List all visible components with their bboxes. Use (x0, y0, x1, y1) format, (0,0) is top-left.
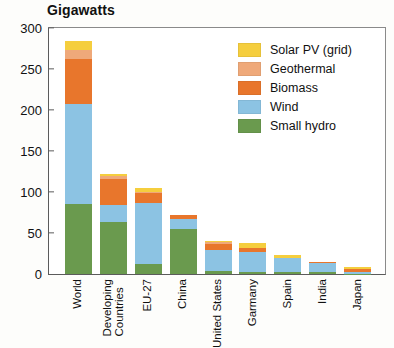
x-axis-label: EU-27 (142, 279, 154, 312)
x-axis-label: Japan (353, 279, 365, 310)
stacked-bar[interactable] (205, 241, 232, 274)
x-axis-label: India (318, 279, 330, 304)
legend-swatch (238, 119, 261, 133)
x-axis-label-line: Garmany (247, 279, 259, 326)
stacked-bar[interactable] (170, 215, 197, 274)
x-axis-label: World (72, 279, 84, 309)
stacked-bar[interactable] (135, 188, 162, 274)
y-tick-label: 150 (20, 144, 49, 159)
legend-item[interactable]: Geothermal (238, 61, 352, 77)
x-axis-label-line: China (177, 279, 189, 309)
stacked-bar[interactable] (344, 267, 371, 274)
x-label-slot: Japan (341, 277, 376, 344)
bar-slot (61, 28, 96, 274)
bar-segment-biomass (100, 179, 127, 205)
bar-segment-biomass (135, 193, 162, 203)
bar-segment-wind (65, 104, 92, 204)
chart-title: Gigawatts (47, 2, 115, 18)
x-axis-label-line: United States (212, 279, 224, 348)
bar-segment-wind (135, 203, 162, 264)
legend-label: Wind (270, 100, 298, 114)
bar-slot (96, 28, 131, 274)
y-tick-label: 0 (35, 267, 49, 282)
legend-item[interactable]: Biomass (238, 80, 352, 96)
bar-segment-small-hydro (170, 229, 197, 274)
x-axis-label: United States (212, 279, 224, 348)
bar-segment-wind (309, 263, 336, 272)
bar-segment-solar-pv-grid (65, 41, 92, 50)
bar-slot (166, 28, 201, 274)
x-label-slot: DevelopingCountries (95, 277, 130, 344)
stacked-bar[interactable] (309, 262, 336, 274)
x-label-slot: United States (200, 277, 235, 344)
legend-swatch (238, 43, 261, 57)
legend-label: Solar PV (grid) (270, 43, 352, 57)
bar-segment-small-hydro (309, 272, 336, 274)
bar-segment-geothermal (65, 50, 92, 59)
legend-label: Small hydro (270, 119, 336, 133)
x-axis-label-line: EU-27 (142, 279, 154, 312)
x-axis-labels: WorldDevelopingCountriesEU-27ChinaUnited… (48, 277, 386, 344)
x-axis-label-line: India (318, 279, 330, 304)
stacked-bar[interactable] (239, 243, 266, 274)
bar-segment-small-hydro (65, 204, 92, 274)
bar-segment-wind (239, 252, 266, 273)
bar-segment-small-hydro (274, 272, 301, 274)
stacked-bar[interactable] (274, 255, 301, 274)
x-axis-label-line: Spain (282, 279, 294, 308)
x-axis-label: Spain (282, 279, 294, 308)
stacked-bar[interactable] (65, 41, 92, 274)
x-axis-label-line: Developing (101, 279, 113, 337)
x-label-slot: China (165, 277, 200, 344)
bar-segment-small-hydro (100, 222, 127, 274)
y-tick-label: 100 (20, 185, 49, 200)
x-label-slot: Spain (271, 277, 306, 344)
bar-segment-small-hydro (239, 272, 266, 274)
y-tick-label: 200 (20, 103, 49, 118)
legend-label: Biomass (270, 81, 318, 95)
legend-item[interactable]: Solar PV (grid) (238, 42, 352, 58)
legend-item[interactable]: Wind (238, 99, 352, 115)
legend-swatch (238, 81, 261, 95)
bar-segment-small-hydro (205, 271, 232, 274)
x-label-slot: EU-27 (130, 277, 165, 344)
y-tick-label: 250 (20, 62, 49, 77)
bar-segment-biomass (65, 59, 92, 104)
legend-item[interactable]: Small hydro (238, 118, 352, 134)
legend-swatch (238, 100, 261, 114)
bar-segment-small-hydro (135, 264, 162, 274)
x-axis-label-line: Japan (353, 279, 365, 310)
y-tick-label: 300 (20, 21, 49, 36)
x-axis-label: China (177, 279, 189, 309)
stacked-bar[interactable] (100, 174, 127, 274)
legend-swatch (238, 62, 261, 76)
bar-segment-wind (205, 250, 232, 271)
x-label-slot: India (306, 277, 341, 344)
x-axis-label: DevelopingCountries (101, 279, 124, 337)
x-axis-label: Garmany (247, 279, 259, 326)
legend-label: Geothermal (270, 62, 335, 76)
bar-slot (131, 28, 166, 274)
bar-slot (201, 28, 236, 274)
x-label-slot: World (60, 277, 95, 344)
x-axis-label-line: World (72, 279, 84, 309)
x-label-slot: Garmany (236, 277, 271, 344)
bar-segment-wind (170, 219, 197, 229)
bar-segment-wind (100, 205, 127, 222)
chart-legend: Solar PV (grid)GeothermalBiomassWindSmal… (238, 42, 352, 134)
x-axis-label-line: Countries (113, 279, 125, 337)
bar-segment-wind (274, 258, 301, 272)
y-tick-label: 50 (28, 226, 49, 241)
